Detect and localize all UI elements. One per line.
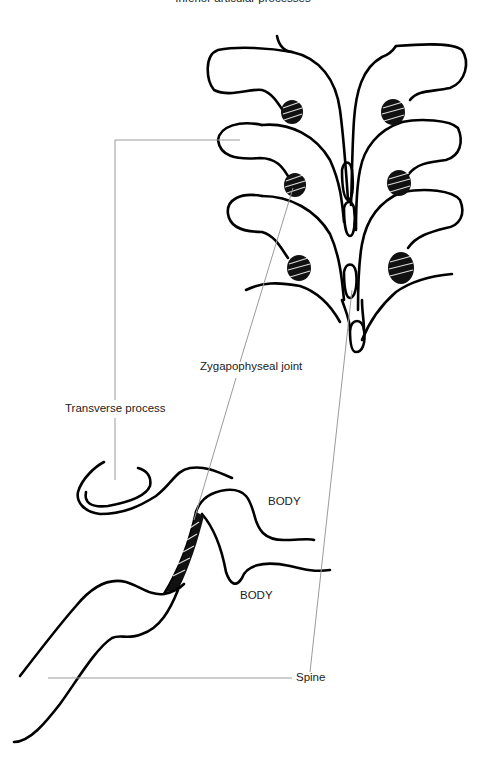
- facet-joint-left-2: [284, 173, 306, 197]
- label-spine: Spine: [296, 671, 325, 683]
- anatomy-diagram: Inferior articular processes: [0, 0, 486, 778]
- leader-zygapophyseal-top: [240, 188, 293, 362]
- facet-joint-right-1: [381, 99, 405, 125]
- posterior-vertebrae: [208, 36, 466, 352]
- diagram-drawing: [0, 0, 486, 778]
- label-body-lower: BODY: [240, 589, 273, 601]
- label-zygapophyseal-joint: Zygapophyseal joint: [200, 360, 302, 372]
- facet-joint-left-3: [287, 255, 311, 281]
- leader-zygapophyseal-bottom: [194, 378, 236, 520]
- leader-spine-diagonal: [310, 290, 352, 672]
- facet-joint-right-3: [388, 252, 414, 284]
- label-body-upper: BODY: [268, 495, 301, 507]
- label-transverse-process: Transverse process: [65, 402, 166, 414]
- facet-joint-left-1: [281, 100, 303, 124]
- facet-joint-right-2: [387, 170, 411, 196]
